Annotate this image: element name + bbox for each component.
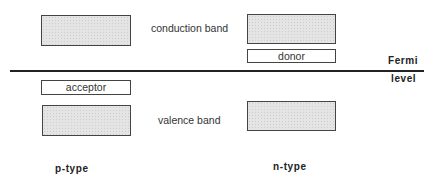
- p-type-valence-band: [42, 105, 131, 136]
- n-type-valence-band: [247, 101, 336, 131]
- p-type-conduction-band: [41, 15, 131, 46]
- fermi-label: Fermi: [388, 55, 418, 66]
- level-label: level: [391, 73, 416, 84]
- valence-band-label: valence band: [158, 114, 220, 126]
- donor-label: donor: [278, 50, 305, 62]
- n-type-label: n-type: [273, 161, 307, 172]
- donor-level: donor: [247, 49, 336, 63]
- p-type-label: p-type: [55, 163, 89, 174]
- conduction-band-label: conduction band: [151, 22, 228, 34]
- n-type-conduction-band: [247, 14, 336, 44]
- acceptor-label: acceptor: [66, 81, 106, 93]
- fermi-level-line: [10, 70, 424, 72]
- acceptor-level: acceptor: [41, 80, 131, 95]
